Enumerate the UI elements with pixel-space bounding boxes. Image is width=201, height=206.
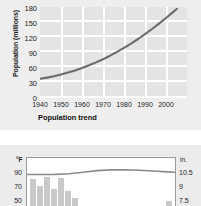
y-axis-tick-labels: 180 150 120 90 60 30 0	[0, 0, 40, 105]
right-axis-tick-labels: 10.5 9 7.5	[177, 145, 201, 206]
y-tick-label: 150	[3, 20, 37, 27]
climate-chart: °F in. 90 70 50 10.5 9 7.5	[0, 145, 201, 206]
left-tick-label: 50	[0, 197, 22, 204]
population-line-series	[40, 7, 187, 98]
left-tick-label: 70	[0, 183, 22, 190]
climate-plot-area	[26, 157, 176, 206]
temperature-line-series	[27, 158, 175, 206]
y-tick-label: 180	[3, 5, 37, 12]
y-tick-label: 30	[3, 80, 37, 87]
screenshot-root: Population (millions) 180 150 120 90 60 …	[0, 0, 201, 206]
right-tick-label: 10.5	[179, 169, 201, 176]
left-tick-label: 90	[0, 169, 22, 176]
y-tick-label: 90	[3, 50, 37, 57]
x-axis-title: Population trend	[38, 113, 97, 122]
y-tick-label: 60	[3, 65, 37, 72]
population-trend-chart: Population (millions) 180 150 120 90 60 …	[0, 0, 201, 130]
right-tick-label: 9	[179, 183, 201, 190]
right-tick-label: 7.5	[179, 197, 201, 204]
x-tick-label: 2000	[153, 101, 179, 109]
x-axis-tick-labels: 1940 1950 1960 1970 1980 1990 2000	[0, 101, 201, 113]
y-tick-label: 120	[3, 35, 37, 42]
left-axis-tick-labels: 90 70 50	[0, 145, 24, 206]
